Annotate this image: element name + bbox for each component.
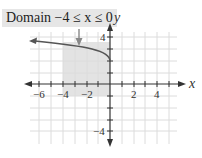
svg-text:−4: −4 [57, 88, 69, 100]
y-axis-label: y [112, 10, 121, 25]
svg-text:−2: −2 [81, 88, 93, 100]
svg-text:−6: −6 [33, 88, 45, 100]
svg-text:4: 4 [154, 88, 160, 100]
x-axis-label: x [188, 76, 196, 91]
svg-text:2: 2 [131, 88, 137, 100]
coordinate-plane: −6 −4 −2 2 4 x 4 −4 y [0, 0, 202, 158]
svg-text:−4: −4 [93, 125, 105, 137]
svg-text:4: 4 [100, 31, 106, 43]
